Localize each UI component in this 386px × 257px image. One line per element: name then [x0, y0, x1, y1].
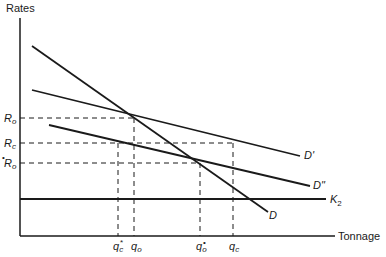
- label-k2: K2: [330, 193, 342, 208]
- y-axis-label: Rates: [6, 2, 35, 14]
- marker-q-c-star: *: [120, 238, 123, 247]
- marker-q-o-star: •: [203, 238, 206, 247]
- label-r-o-star: Ro: [4, 157, 17, 171]
- guide-lines: [20, 118, 233, 236]
- label-d-prime: D': [304, 149, 315, 161]
- label-r-o: Ro: [4, 112, 17, 126]
- label-d-double-prime: D": [313, 179, 326, 191]
- label-q-c: qc: [229, 240, 239, 254]
- curve-d-double-prime: [49, 125, 310, 186]
- x-axis-label: Tonnage: [338, 230, 380, 242]
- marker-r-o-star: •: [2, 153, 5, 162]
- demand-rate-diagram: Rates Tonnage D D' D" K2 Ro Rc Ro • qc *…: [0, 0, 386, 257]
- label-r-c: Rc: [4, 137, 16, 151]
- label-d: D: [269, 209, 277, 221]
- curve-d-prime: [32, 90, 300, 156]
- label-q-o: qo: [131, 240, 142, 254]
